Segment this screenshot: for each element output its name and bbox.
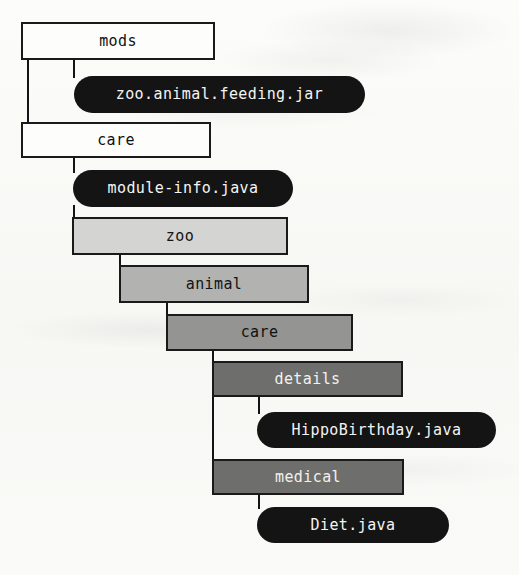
node-hippobirthday-java-label: HippoBirthday.java [292, 423, 462, 438]
node-mods-label: mods [99, 34, 137, 49]
connector-diet-drop [258, 493, 260, 509]
node-details-directory[interactable]: details [212, 361, 403, 397]
node-hippobirthday-java-file[interactable]: HippoBirthday.java [257, 412, 496, 448]
node-mods-directory[interactable]: mods [21, 22, 215, 60]
node-medical-directory[interactable]: medical [212, 459, 404, 495]
connector-care-drop [166, 301, 168, 315]
node-care-package-label: care [241, 325, 279, 340]
node-care-package-directory[interactable]: care [166, 314, 353, 351]
node-diet-java-file[interactable]: Diet.java [257, 507, 449, 543]
node-zoo-animal-feeding-jar-label: zoo.animal.feeding.jar [116, 87, 323, 102]
connector-jar-drop [73, 58, 75, 78]
node-animal-directory[interactable]: animal [119, 265, 309, 303]
connector-mods-trunk [27, 58, 29, 125]
node-module-info-java-file[interactable]: module-info.java [73, 170, 293, 207]
node-care-root-directory[interactable]: care [21, 122, 211, 158]
connector-hippo-drop [258, 395, 260, 414]
node-animal-label: animal [186, 277, 243, 292]
node-module-info-java-label: module-info.java [108, 181, 259, 196]
node-care-root-label: care [97, 133, 135, 148]
node-diet-java-label: Diet.java [311, 518, 396, 533]
node-medical-label: medical [275, 470, 341, 485]
node-zoo-animal-feeding-jar-file[interactable]: zoo.animal.feeding.jar [74, 76, 365, 113]
directory-tree-diagram: mods zoo.animal.feeding.jar care module-… [0, 0, 519, 575]
node-details-label: details [274, 372, 340, 387]
node-zoo-label: zoo [166, 229, 194, 244]
node-zoo-directory[interactable]: zoo [72, 217, 288, 255]
